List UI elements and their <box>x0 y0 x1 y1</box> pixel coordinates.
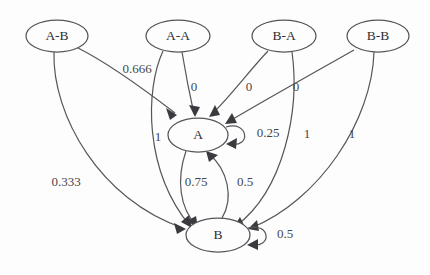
edge-ba-to-a-path <box>212 51 268 114</box>
edge-label-ba-to-b: 1 <box>304 126 311 141</box>
edge-a-self-loop-arrowhead <box>226 138 237 149</box>
edge-label-a-to-b: 0.75 <box>185 174 208 189</box>
node-aa[interactable]: A-A <box>146 20 210 52</box>
edge-label-a-self: 0.25 <box>257 125 280 140</box>
node-b[interactable]: B <box>186 218 250 252</box>
node-ab-label: A-B <box>45 28 68 43</box>
edge-ab-to-b-path <box>54 52 183 228</box>
edge-bb-to-b-path <box>251 52 374 228</box>
edge-label-bb-to-b: 1 <box>349 126 356 141</box>
edge-label-b-self: 0.5 <box>277 226 293 241</box>
edge-ab-to-b-arrowhead <box>174 223 186 234</box>
node-a[interactable]: A <box>168 118 228 152</box>
diagram-canvas: A-B A-A B-A B-B A B 0.666 0.333 0 1 0 1 <box>0 0 430 275</box>
edge-aa-to-a-arrowhead <box>189 105 200 117</box>
edge-ba-to-a <box>209 51 268 117</box>
node-b-label: B <box>213 227 222 242</box>
edge-label-ab-to-a: 0.666 <box>122 61 152 76</box>
node-ba-label: B-A <box>272 28 296 43</box>
edge-ab-to-a <box>78 48 177 120</box>
edge-bb-to-a-arrowhead <box>225 113 237 124</box>
edge-label-aa-to-a: 0 <box>191 79 198 94</box>
edge-a-self-loop <box>226 126 245 149</box>
node-a-label: A <box>193 127 203 142</box>
edge-bb-to-b-arrowhead <box>248 220 259 231</box>
edge-label-ba-to-a: 0 <box>246 79 253 94</box>
edge-label-bb-to-a: 0 <box>293 79 300 94</box>
edge-b-to-a <box>206 151 228 218</box>
state-transition-diagram: A-B A-A B-A B-B A B 0.666 0.333 0 1 0 1 <box>0 0 430 275</box>
edge-ba-to-b <box>233 52 294 228</box>
edge-label-b-to-a: 0.5 <box>237 174 253 189</box>
node-ba[interactable]: B-A <box>252 20 316 52</box>
edge-label-aa-to-b: 1 <box>155 129 162 144</box>
edge-b-to-a-path <box>209 154 228 218</box>
node-ab[interactable]: A-B <box>26 20 88 52</box>
node-bb[interactable]: B-B <box>347 20 409 52</box>
node-bb-label: B-B <box>367 28 390 43</box>
edge-bb-to-a <box>225 50 354 124</box>
edge-ab-to-b <box>54 52 186 234</box>
node-aa-label: A-A <box>166 28 190 43</box>
edge-label-ab-to-b: 0.333 <box>51 174 80 189</box>
edge-bb-to-b <box>248 52 374 231</box>
